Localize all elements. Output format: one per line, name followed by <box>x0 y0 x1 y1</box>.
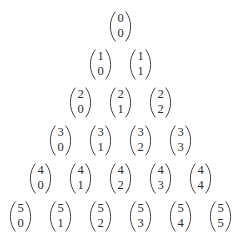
left-parenthesis-icon <box>129 49 136 80</box>
binomial-coefficient: 20 <box>61 83 101 121</box>
binomial-lower-value: 0 <box>57 141 63 154</box>
binomial-coefficient: 10 <box>81 45 121 83</box>
binomial-stack: 30 <box>56 126 64 154</box>
left-parenthesis-icon <box>49 201 56 232</box>
binomial-stack: 43 <box>156 164 164 192</box>
left-parenthesis-icon <box>109 163 116 194</box>
left-parenthesis-icon <box>89 125 96 156</box>
binomial-coefficient: 31 <box>81 121 121 159</box>
binomial-coefficient: 41 <box>61 159 101 197</box>
left-parenthesis-icon <box>169 125 176 156</box>
pascal-triangle: 0010112021223031323340414243445051525354… <box>0 0 241 242</box>
binomial-lower-value: 0 <box>117 27 123 40</box>
binomial-stack: 53 <box>136 202 144 230</box>
right-parenthesis-icon <box>145 201 152 232</box>
binomial-stack: 42 <box>116 164 124 192</box>
binomial-coefficient: 50 <box>1 197 41 235</box>
binomial-stack: 41 <box>76 164 84 192</box>
binomial-coefficient: 21 <box>101 83 141 121</box>
left-parenthesis-icon <box>149 163 156 194</box>
left-parenthesis-icon <box>9 201 16 232</box>
binomial-coefficient: 11 <box>121 45 161 83</box>
binomial-upper-value: 4 <box>37 164 43 177</box>
triangle-row: 00 <box>101 7 141 45</box>
binomial-lower-value: 1 <box>117 103 123 116</box>
binomial-lower-value: 0 <box>97 65 103 78</box>
binomial-upper-value: 5 <box>57 202 63 215</box>
binomial-lower-value: 4 <box>197 179 203 192</box>
right-parenthesis-icon <box>125 11 132 42</box>
right-parenthesis-icon <box>145 49 152 80</box>
binomial-coefficient: 42 <box>101 159 141 197</box>
binomial-coefficient: 55 <box>201 197 241 235</box>
binomial-lower-value: 3 <box>137 217 143 230</box>
right-parenthesis-icon <box>145 125 152 156</box>
binomial-stack: 21 <box>116 88 124 116</box>
left-parenthesis-icon <box>129 125 136 156</box>
binomial-lower-value: 2 <box>117 179 123 192</box>
triangle-row: 1011 <box>81 45 161 83</box>
binomial-upper-value: 2 <box>77 88 83 101</box>
binomial-upper-value: 5 <box>17 202 23 215</box>
binomial-stack: 40 <box>36 164 44 192</box>
binomial-coefficient: 33 <box>161 121 201 159</box>
binomial-coefficient: 53 <box>121 197 161 235</box>
triangle-row: 505152535455 <box>1 197 241 235</box>
left-parenthesis-icon <box>69 87 76 118</box>
binomial-coefficient: 32 <box>121 121 161 159</box>
triangle-row: 30313233 <box>41 121 201 159</box>
binomial-upper-value: 5 <box>217 202 223 215</box>
binomial-upper-value: 3 <box>137 126 143 139</box>
right-parenthesis-icon <box>85 163 92 194</box>
binomial-upper-value: 4 <box>77 164 83 177</box>
binomial-coefficient: 43 <box>141 159 181 197</box>
binomial-stack: 11 <box>136 50 144 78</box>
binomial-lower-value: 3 <box>177 141 183 154</box>
right-parenthesis-icon <box>65 125 72 156</box>
binomial-lower-value: 3 <box>157 179 163 192</box>
binomial-stack: 32 <box>136 126 144 154</box>
binomial-lower-value: 4 <box>177 217 183 230</box>
right-parenthesis-icon <box>105 201 112 232</box>
binomial-stack: 20 <box>76 88 84 116</box>
left-parenthesis-icon <box>69 163 76 194</box>
right-parenthesis-icon <box>165 87 172 118</box>
right-parenthesis-icon <box>185 201 192 232</box>
left-parenthesis-icon <box>89 49 96 80</box>
right-parenthesis-icon <box>165 163 172 194</box>
left-parenthesis-icon <box>169 201 176 232</box>
binomial-coefficient: 52 <box>81 197 121 235</box>
right-parenthesis-icon <box>205 163 212 194</box>
binomial-coefficient: 51 <box>41 197 81 235</box>
left-parenthesis-icon <box>189 163 196 194</box>
binomial-coefficient: 00 <box>101 7 141 45</box>
binomial-upper-value: 5 <box>97 202 103 215</box>
binomial-lower-value: 2 <box>97 217 103 230</box>
binomial-lower-value: 0 <box>17 217 23 230</box>
binomial-upper-value: 4 <box>117 164 123 177</box>
binomial-stack: 33 <box>176 126 184 154</box>
binomial-upper-value: 3 <box>57 126 63 139</box>
right-parenthesis-icon <box>105 49 112 80</box>
left-parenthesis-icon <box>29 163 36 194</box>
right-parenthesis-icon <box>65 201 72 232</box>
binomial-upper-value: 1 <box>137 50 143 63</box>
binomial-stack: 50 <box>16 202 24 230</box>
left-parenthesis-icon <box>109 87 116 118</box>
binomial-lower-value: 1 <box>57 217 63 230</box>
binomial-stack: 10 <box>96 50 104 78</box>
left-parenthesis-icon <box>209 201 216 232</box>
binomial-stack: 51 <box>56 202 64 230</box>
binomial-stack: 22 <box>156 88 164 116</box>
left-parenthesis-icon <box>129 201 136 232</box>
binomial-upper-value: 0 <box>117 12 123 25</box>
left-parenthesis-icon <box>49 125 56 156</box>
binomial-coefficient: 30 <box>41 121 81 159</box>
binomial-stack: 00 <box>116 12 124 40</box>
binomial-coefficient: 44 <box>181 159 221 197</box>
binomial-coefficient: 54 <box>161 197 201 235</box>
binomial-upper-value: 5 <box>137 202 143 215</box>
right-parenthesis-icon <box>225 201 232 232</box>
right-parenthesis-icon <box>25 201 32 232</box>
binomial-upper-value: 1 <box>97 50 103 63</box>
